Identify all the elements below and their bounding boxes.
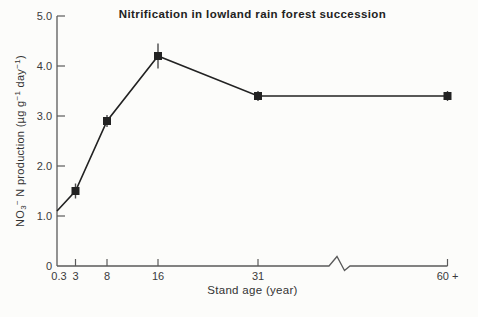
x-axis [57, 257, 448, 271]
x-tick-label: 8 [104, 270, 110, 282]
y-tick-label: 4.0 [37, 60, 52, 72]
data-point-marker [444, 92, 452, 100]
y-tick-label: 5.0 [37, 10, 52, 22]
data-point-marker [254, 92, 262, 100]
x-tick-label: 3 [72, 270, 78, 282]
data-point-marker [103, 117, 111, 125]
data-point-marker [72, 187, 80, 195]
x-axis-title: Stand age (year) [57, 284, 448, 296]
y-tick-label: 3.0 [37, 110, 52, 122]
plot-area: 01.02.03.04.05.00.338163160 + [0, 0, 478, 317]
y-tick-label: 2.0 [37, 160, 52, 172]
x-tick-label: 16 [152, 270, 164, 282]
x-tick-label: 0.3 [51, 270, 66, 282]
data-line [57, 56, 448, 211]
data-point-marker [154, 52, 162, 60]
y-tick-label: 1.0 [37, 210, 52, 222]
nitrification-chart: Nitrification in lowland rain forest suc… [0, 0, 478, 317]
x-tick-label: 60 + [437, 270, 459, 282]
x-tick-label: 31 [252, 270, 264, 282]
